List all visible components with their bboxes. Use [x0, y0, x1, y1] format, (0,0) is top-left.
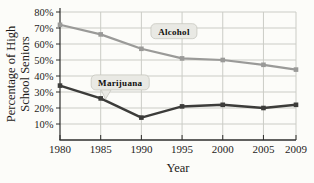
- alcohol-data-point-marker: [220, 58, 225, 63]
- x-tick-label: 1980: [49, 143, 72, 155]
- y-tick-label: 70%: [34, 23, 54, 34]
- alcohol-series-callout-label: Alcohol: [158, 27, 190, 37]
- y-tick-label: 40%: [34, 71, 54, 82]
- alcohol-data-point-marker: [294, 67, 299, 72]
- marijuana-data-point-marker: [58, 83, 63, 88]
- y-tick-label: 80%: [34, 7, 54, 18]
- x-tick-label: 2009: [285, 143, 308, 155]
- marijuana-data-point-marker: [220, 103, 225, 108]
- marijuana-data-point-marker: [180, 104, 185, 109]
- marijuana-data-point-marker: [139, 115, 144, 120]
- marijuana-data-point-marker: [294, 103, 299, 108]
- alcohol-data-point-marker: [98, 32, 103, 37]
- x-axis-title: Year: [60, 161, 296, 176]
- alcohol-marijuana-line-chart: Percentage of High School Seniors 10%20%…: [0, 0, 314, 183]
- y-tick-label: 50%: [34, 55, 54, 66]
- alcohol-data-point-marker: [261, 63, 266, 68]
- marijuana-data-point-marker: [98, 96, 103, 101]
- y-tick-label: 10%: [34, 119, 54, 130]
- x-tick-label: 2005: [252, 143, 275, 155]
- y-tick-label: 30%: [34, 87, 54, 98]
- x-tick-label: 2000: [212, 143, 235, 155]
- y-tick-label: 60%: [34, 39, 54, 50]
- alcohol-data-point-marker: [139, 47, 144, 52]
- alcohol-data-point-marker: [180, 56, 185, 61]
- marijuana-series-callout-label: Marijuana: [98, 78, 142, 88]
- marijuana-data-point-marker: [261, 106, 266, 111]
- marijuana-line: [60, 86, 296, 118]
- alcohol-data-point-marker: [58, 23, 63, 28]
- x-tick-label: 1985: [90, 143, 113, 155]
- y-tick-label: 20%: [34, 103, 54, 114]
- x-tick-label: 1995: [171, 143, 194, 155]
- x-tick-label: 1990: [130, 143, 153, 155]
- plot-area: 10%20%30%40%50%60%70%80%1980198519901995…: [0, 0, 314, 183]
